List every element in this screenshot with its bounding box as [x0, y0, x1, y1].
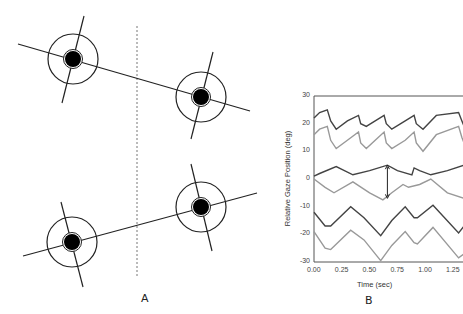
gaze-line-bottom — [23, 193, 257, 256]
y-tick-label: 10 — [302, 146, 310, 153]
x-tick-label: 1.00 — [418, 266, 432, 273]
y-tick-label: -20 — [300, 229, 310, 236]
y-tick-label: 20 — [302, 119, 310, 126]
eye-icon — [176, 164, 226, 251]
y-axis-title: Relative Gaze Position (deg) — [283, 79, 292, 279]
panel-b-gaze-chart — [314, 96, 463, 262]
x-axis-title: Time (sec) — [357, 280, 392, 289]
panel-a-eye-diagrams — [18, 16, 257, 287]
y-tick-label: 30 — [302, 91, 310, 98]
x-tick-label: 1.25 — [446, 266, 460, 273]
series-line-pair4-light — [314, 227, 463, 260]
eye-icon — [48, 16, 98, 103]
x-tick-label: 0.25 — [335, 266, 349, 273]
panel-a-label: A — [141, 292, 149, 305]
y-tick-label: 0 — [306, 174, 310, 181]
eye-icon — [176, 52, 226, 139]
panel-b-label: B — [365, 294, 373, 307]
x-tick-label: 0.50 — [363, 266, 377, 273]
x-tick-label: 0.75 — [390, 266, 404, 273]
eye-icon — [47, 202, 97, 287]
series-line-pair1-light — [314, 126, 463, 151]
y-tick-label: -10 — [300, 202, 310, 209]
series-line-pair1-dark — [314, 110, 463, 129]
gaze-line-top — [18, 44, 250, 111]
x-tick-label: 0.00 — [307, 266, 321, 273]
y-tick-label: -30 — [300, 257, 310, 264]
series-line-pair3-dark — [314, 205, 463, 235]
